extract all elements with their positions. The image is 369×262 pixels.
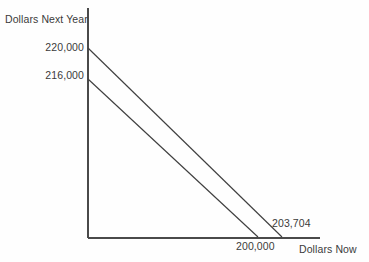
plot-area (0, 0, 369, 262)
budget-line-lower (88, 79, 258, 237)
y-axis-tick-label-216000: 216,000 (45, 69, 84, 81)
x-axis-title: Dollars Now (299, 243, 357, 255)
annotation-upper-intercept: 203,704 (272, 217, 311, 229)
chart-figure: Dollars Next Year 220,000 216,000 203,70… (0, 0, 369, 262)
y-axis-tick-label-220000: 220,000 (45, 41, 84, 53)
budget-line-upper (88, 48, 282, 237)
annotation-lower-intercept: 200,000 (236, 240, 275, 252)
y-axis-title: Dollars Next Year (5, 13, 88, 25)
